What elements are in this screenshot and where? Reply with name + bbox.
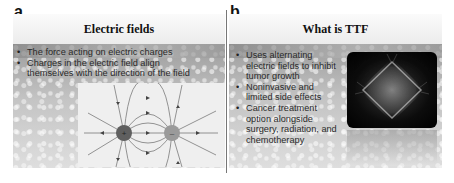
cell-spindle-icon (347, 52, 437, 128)
slide-title-bar: What is TTF (229, 14, 442, 44)
bullet-item: Charges in the electric field align them… (15, 58, 205, 79)
bullet-list: The force acting on electric charges Cha… (15, 47, 205, 79)
bullet-item: Cancer treatment option alongside surger… (234, 103, 338, 145)
slide-title: Electric fields (84, 22, 154, 37)
bullet-item: The force acting on electric charges (15, 47, 205, 58)
image-reflection (347, 130, 437, 166)
slide-body: The force acting on electric charges Cha… (13, 44, 225, 168)
slide-title: What is TTF (303, 22, 369, 37)
svg-text:+: + (122, 129, 127, 138)
electric-field-lines-icon: + – (78, 83, 225, 167)
bullet-item: Uses alternating electric fields to inhi… (234, 50, 338, 82)
svg-text:–: – (170, 129, 175, 138)
slide-what-is-ttf: What is TTF Uses alternating electric fi… (229, 14, 442, 168)
bullet-list: Uses alternating electric fields to inhi… (234, 50, 338, 145)
slide-body: Uses alternating electric fields to inhi… (229, 44, 442, 168)
dipole-field-diagram: + – (78, 83, 225, 167)
slide-electric-fields: Electric fields The force acting on elec… (13, 14, 225, 168)
bullet-item: Noninvasive and limited side effects (234, 82, 338, 103)
mitotic-cell-image (347, 52, 437, 128)
panel-divider (226, 10, 227, 173)
slide-title-bar: Electric fields (13, 14, 225, 44)
